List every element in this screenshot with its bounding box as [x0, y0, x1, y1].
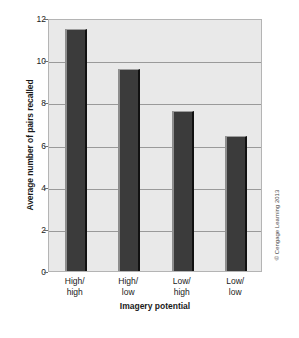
y-tick-mark [44, 19, 48, 20]
bar [172, 111, 194, 271]
x-axis-title: Imagery potential [48, 301, 262, 311]
y-tick-mark [44, 146, 48, 147]
y-tick-label: 0 [22, 267, 46, 277]
y-tick-mark [44, 103, 48, 104]
x-tick-label-line: High/ [101, 276, 155, 287]
x-tick-label: High/low [101, 276, 155, 297]
bar [118, 69, 140, 271]
x-tick-label: Low/high [155, 276, 209, 297]
bar [225, 136, 247, 271]
plot-area [48, 19, 262, 272]
y-tick-mark [44, 61, 48, 62]
bar [65, 29, 87, 271]
bar-chart-figure: Average number of pairs recalled 0246810… [0, 0, 299, 338]
y-tick-label: 4 [22, 183, 46, 193]
y-tick-mark [44, 188, 48, 189]
y-tick-mark [44, 272, 48, 273]
y-tick-label: 6 [22, 141, 46, 151]
y-tick-label: 10 [22, 56, 46, 66]
y-tick-label: 8 [22, 98, 46, 108]
x-tick-label-line: High/ [48, 276, 102, 287]
x-tick-label-line: Low/ [155, 276, 209, 287]
x-tick-label-line: high [48, 287, 102, 298]
x-tick-label-line: low [208, 287, 262, 298]
x-tick-label-line: Low/ [208, 276, 262, 287]
x-tick-label-line: high [155, 287, 209, 298]
y-tick-label: 2 [22, 225, 46, 235]
y-tick-mark [44, 230, 48, 231]
x-tick-label-line: low [101, 287, 155, 298]
copyright-notice: © Cengage Learning 2013 [274, 180, 280, 270]
x-tick-label: High/high [48, 276, 102, 297]
x-tick-label: Low/low [208, 276, 262, 297]
y-tick-label: 12 [22, 14, 46, 24]
